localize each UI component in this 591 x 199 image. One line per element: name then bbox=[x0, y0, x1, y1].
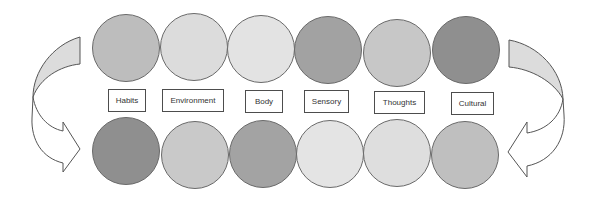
right-curved-arrow-icon bbox=[508, 40, 564, 177]
top-circle-3 bbox=[227, 15, 295, 83]
label-environment: Environment bbox=[162, 89, 224, 112]
arrows-layer bbox=[0, 0, 591, 199]
cycle-diagram: Habits Environment Body Sensory Thoughts… bbox=[0, 0, 591, 199]
top-circle-1 bbox=[92, 14, 160, 82]
label-body: Body bbox=[245, 90, 283, 113]
bottom-circle-3 bbox=[229, 120, 297, 188]
top-circle-4 bbox=[294, 16, 362, 84]
top-circle-5 bbox=[363, 19, 431, 87]
label-habits: Habits bbox=[108, 89, 146, 112]
label-sensory: Sensory bbox=[304, 90, 349, 113]
bottom-circle-1 bbox=[92, 117, 160, 185]
label-thoughts: Thoughts bbox=[374, 91, 425, 114]
left-curved-arrow-icon bbox=[32, 37, 80, 172]
bottom-circle-4 bbox=[296, 120, 364, 188]
bottom-circle-2 bbox=[161, 121, 229, 189]
bottom-circle-6 bbox=[431, 121, 499, 189]
top-circle-2 bbox=[160, 13, 228, 81]
top-circle-6 bbox=[432, 16, 500, 84]
bottom-circle-5 bbox=[363, 119, 431, 187]
label-cultural: Cultural bbox=[451, 92, 494, 115]
